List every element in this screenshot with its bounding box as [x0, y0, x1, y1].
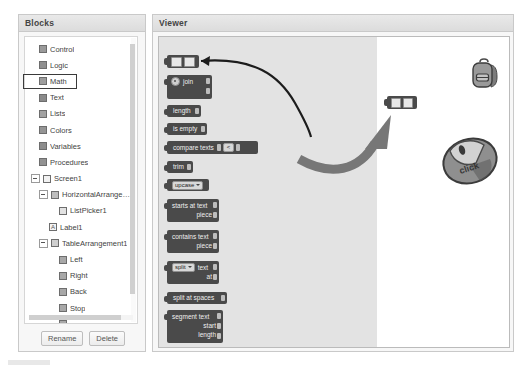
flyout-block-compare-texts[interactable]: compare texts <	[167, 141, 258, 154]
starts-at-piece-label: piece	[196, 211, 212, 219]
computer-mouse-illustration: click	[440, 133, 500, 189]
split-dropdown[interactable]: split	[172, 263, 195, 272]
flyout-block-split[interactable]: split text at	[167, 261, 219, 284]
string-value-field[interactable]	[391, 98, 401, 108]
tree-item-back[interactable]: Back	[25, 284, 133, 300]
text-category-selection-highlight	[23, 74, 77, 89]
blocks-category-control[interactable]: Control	[25, 41, 133, 57]
delete-button[interactable]: Delete	[89, 331, 125, 346]
flyout-block-text-string[interactable]	[167, 55, 199, 68]
compare-socket-2	[236, 144, 240, 151]
backpack-icon[interactable]	[471, 57, 499, 89]
segment-start-label: start	[203, 322, 216, 330]
blocks-category-lists[interactable]: Lists	[25, 106, 133, 122]
flyout-block-contains[interactable]: contains text piece	[167, 230, 219, 253]
join-socket-2	[206, 88, 210, 94]
mutator-gear-icon[interactable]	[171, 77, 180, 86]
join-header-row: join	[171, 77, 208, 86]
screen-icon	[43, 175, 51, 183]
segment-row-3: length	[172, 330, 216, 339]
string-quote-field	[184, 57, 195, 67]
tree-vertical-scroll-thumb[interactable]	[130, 44, 135, 294]
flyout-block-split-at-spaces[interactable]: split at spaces	[167, 292, 227, 304]
tree-item-screen1[interactable]: Screen1	[25, 171, 133, 187]
flyout-block-trim[interactable]: trim	[167, 161, 193, 173]
split-socket-1	[213, 264, 217, 270]
flyout-block-join[interactable]: join	[167, 75, 212, 99]
tree-item-left[interactable]: Left	[25, 251, 133, 267]
chevron-down-icon	[196, 184, 200, 186]
control-category-icon	[39, 45, 47, 53]
tree-item-label: Screen1	[54, 174, 82, 183]
rename-button[interactable]: Rename	[41, 331, 83, 346]
compare-texts-label: compare texts	[173, 144, 214, 152]
contains-label: contains text	[172, 233, 209, 241]
flyout-block-length[interactable]: length	[167, 105, 201, 117]
category-label: Variables	[50, 142, 81, 151]
flyout-block-is-empty[interactable]: is empty	[167, 123, 207, 135]
button-icon	[59, 256, 67, 264]
tree-item-label1[interactable]: A Label1	[25, 219, 133, 235]
compare-operator-dropdown[interactable]: <	[223, 143, 235, 152]
tree-item-horizontalarrangement1[interactable]: HorizontalArrangement1	[25, 187, 133, 203]
blocks-category-procedures[interactable]: Procedures	[25, 154, 133, 170]
is-empty-label: is empty	[173, 125, 197, 132]
is-empty-socket	[201, 126, 205, 132]
segment-row-2: start	[172, 321, 216, 330]
category-label: Lists	[50, 109, 65, 118]
tree-item-listpicker1[interactable]: ListPicker1	[25, 203, 133, 219]
tree-item-label: Left	[70, 255, 83, 264]
blocks-category-logic[interactable]: Logic	[25, 57, 133, 73]
blocks-panel: Blocks Control Logic Math Text	[18, 14, 146, 352]
flyout-block-starts-at[interactable]: starts at text piece	[167, 199, 219, 222]
label-icon: A	[49, 223, 57, 231]
split-text-label: text	[198, 264, 208, 272]
tree-item-tablearrangement1[interactable]: TableArrangement1	[25, 235, 133, 251]
upcase-label: upcase	[175, 182, 194, 188]
upcase-dropdown[interactable]: upcase	[172, 181, 203, 190]
length-socket	[195, 108, 199, 114]
tree-horizontal-scroll-thumb[interactable]	[29, 315, 121, 320]
tree-item-stop[interactable]: Stop	[25, 300, 133, 316]
blocks-panel-title: Blocks	[19, 15, 145, 32]
blockly-workspace[interactable]: join length is empty compare texts <	[158, 36, 510, 348]
split-at-spaces-socket	[221, 295, 225, 301]
tree-item-right[interactable]: Right	[25, 268, 133, 284]
horizontal-arrangement-icon	[51, 191, 59, 199]
join-label: join	[183, 78, 193, 86]
category-label: Colors	[50, 126, 72, 135]
contains-socket-1	[213, 233, 217, 239]
expander-icon[interactable]	[31, 174, 40, 183]
listpicker-icon	[59, 207, 67, 215]
viewer-panel-title: Viewer	[153, 15, 513, 32]
tree-vertical-scrollbar[interactable]	[131, 38, 136, 322]
lists-category-icon	[39, 110, 47, 118]
expander-icon[interactable]	[39, 239, 48, 248]
contains-socket-2	[213, 243, 217, 249]
starts-at-socket-2	[213, 212, 217, 218]
expander-icon[interactable]	[39, 190, 48, 199]
flyout-block-upcase[interactable]: upcase	[167, 179, 209, 191]
flyout-block-segment[interactable]: segment text start length	[167, 310, 223, 343]
viewer-panel: Viewer join length	[152, 14, 514, 352]
button-icon	[59, 288, 67, 296]
canvas-block-text-string[interactable]	[387, 96, 417, 109]
text-category-icon	[39, 94, 47, 102]
procedures-category-icon	[39, 158, 47, 166]
split-row-1: split text	[172, 263, 212, 272]
string-value-field[interactable]	[171, 57, 182, 67]
segment-label: segment text	[172, 313, 209, 321]
trim-label: trim	[173, 163, 184, 170]
starts-at-row-2: piece	[172, 210, 212, 219]
contains-row-1: contains text	[172, 232, 212, 241]
blocks-category-variables[interactable]: Variables	[25, 138, 133, 154]
blocks-category-colors[interactable]: Colors	[25, 122, 133, 138]
colors-category-icon	[39, 126, 47, 134]
split-socket-2	[213, 274, 217, 280]
string-quote-field	[403, 98, 413, 108]
tree-horizontal-scrollbar[interactable]	[29, 315, 133, 320]
blocks-category-text[interactable]: Text	[25, 90, 133, 106]
button-icon	[59, 272, 67, 280]
tree-item-label: Label1	[60, 223, 83, 232]
segment-socket-3	[217, 333, 221, 339]
